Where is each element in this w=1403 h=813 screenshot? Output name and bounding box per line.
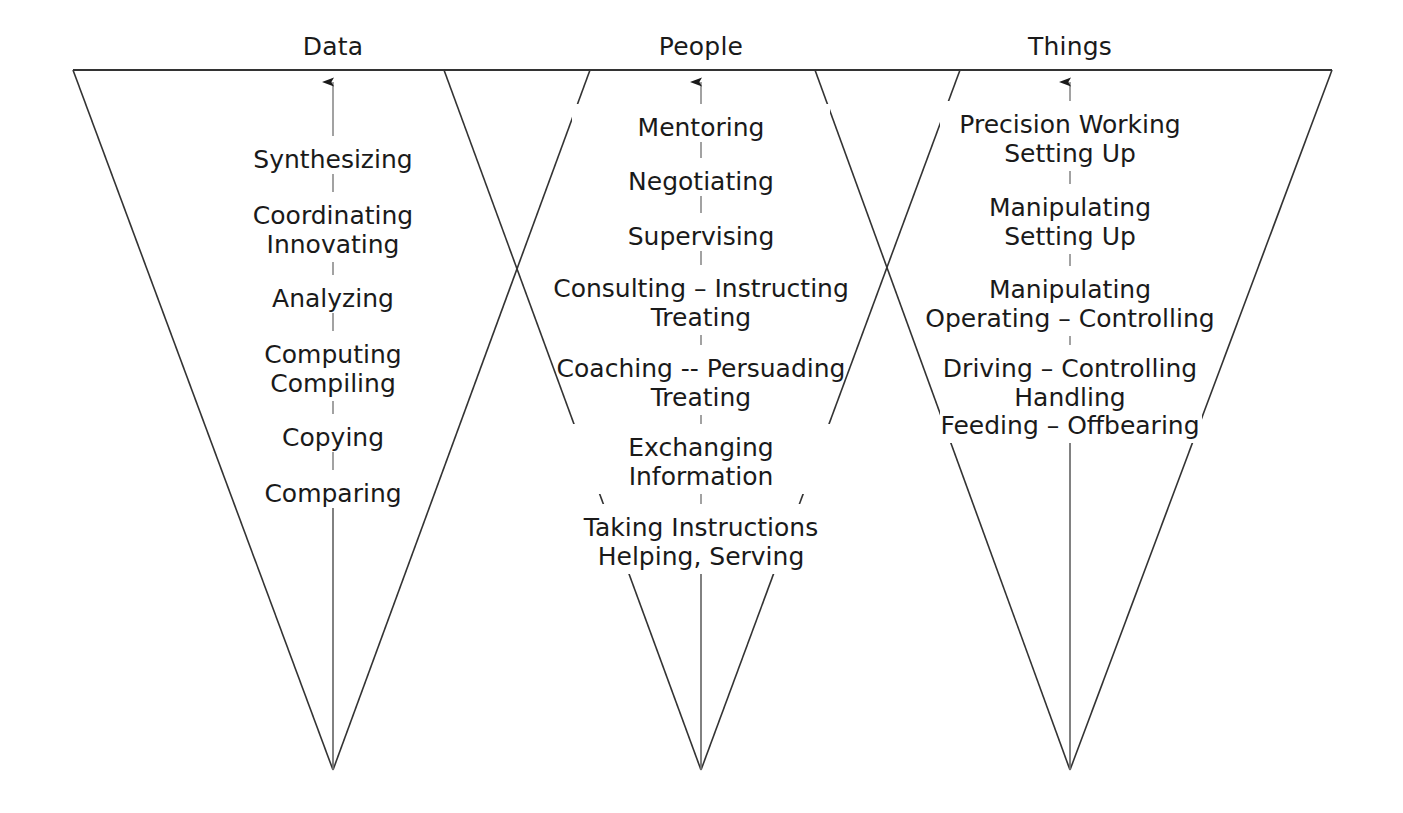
data-group-3: Computing Compiling (264, 341, 401, 398)
data-group-5: Comparing (264, 480, 401, 509)
things-group-3: Driving – Controlling Handling Feeding –… (940, 355, 1199, 441)
data-group-1: Coordinating Innovating (253, 202, 413, 259)
function-label: Manipulating (989, 194, 1151, 223)
function-label: Precision Working (959, 111, 1180, 140)
people-group-4: Coaching -- Persuading Treating (557, 355, 846, 412)
function-label: Setting Up (959, 140, 1180, 169)
function-label: Innovating (253, 231, 413, 260)
function-label: Feeding – Offbearing (940, 412, 1199, 441)
data-group-2: Analyzing (272, 285, 394, 314)
column-header-data: Data (303, 32, 364, 61)
column-header-things: Things (1028, 32, 1112, 61)
function-label: Setting Up (989, 223, 1151, 252)
things-group-1: Manipulating Setting Up (989, 194, 1151, 251)
function-label: Exchanging (628, 434, 773, 463)
function-label: Compiling (264, 370, 401, 399)
function-label: Supervising (628, 223, 775, 252)
function-label: Helping, Serving (584, 543, 818, 572)
people-group-1: Negotiating (628, 168, 774, 197)
things-group-2: Manipulating Operating – Controlling (925, 276, 1214, 333)
function-label: Driving – Controlling (940, 355, 1199, 384)
data-group-4: Copying (282, 424, 384, 453)
function-label: Synthesizing (253, 146, 412, 175)
function-label: Consulting – Instructing (553, 275, 849, 304)
function-label: Information (628, 463, 773, 492)
function-label: Analyzing (272, 285, 394, 314)
function-label: Coordinating (253, 202, 413, 231)
function-label: Handling (940, 384, 1199, 413)
data-group-0: Synthesizing (253, 146, 412, 175)
things-group-0: Precision Working Setting Up (959, 111, 1180, 168)
function-label: Negotiating (628, 168, 774, 197)
function-label: Computing (264, 341, 401, 370)
function-label: Comparing (264, 480, 401, 509)
people-group-0: Mentoring (638, 114, 765, 143)
function-label: Treating (557, 384, 846, 413)
column-header-people: People (659, 32, 743, 61)
people-group-6: Taking Instructions Helping, Serving (584, 514, 818, 571)
worker-functions-diagram: Data People Things Synthesizing Coordina… (0, 0, 1403, 813)
function-label: Taking Instructions (584, 514, 818, 543)
function-label: Manipulating (925, 276, 1214, 305)
function-label: Mentoring (638, 114, 765, 143)
function-label: Coaching -- Persuading (557, 355, 846, 384)
people-group-3: Consulting – Instructing Treating (553, 275, 849, 332)
function-label: Treating (553, 304, 849, 333)
people-group-5: Exchanging Information (628, 434, 773, 491)
function-label: Copying (282, 424, 384, 453)
function-label: Operating – Controlling (925, 305, 1214, 334)
people-group-2: Supervising (628, 223, 775, 252)
